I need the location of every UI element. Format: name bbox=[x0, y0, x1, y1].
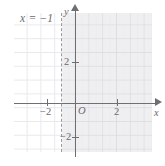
x-tick-label-neg2: −2 bbox=[40, 107, 51, 118]
y-axis-arrow-icon bbox=[71, 4, 79, 11]
x-tick-pos2 bbox=[117, 99, 118, 106]
y-axis-line bbox=[75, 9, 76, 157]
x-tick-label-pos2: 2 bbox=[114, 107, 119, 118]
boundary-equation-label: x = −1 bbox=[20, 13, 53, 25]
y-tick-pos2 bbox=[72, 62, 79, 63]
y-tick-label-pos2: 2 bbox=[64, 57, 69, 68]
plot-area bbox=[14, 13, 152, 152]
y-tick-neg2 bbox=[72, 137, 79, 138]
y-tick-label-neg2: −2 bbox=[60, 132, 71, 143]
x-axis-arrow-icon bbox=[155, 98, 162, 106]
inequality-graph-figure: x = −1 x y O −2 2 2 −2 bbox=[0, 0, 165, 166]
origin-label: O bbox=[78, 106, 86, 117]
x-axis-line bbox=[14, 103, 157, 104]
y-axis-label: y bbox=[64, 7, 69, 18]
x-tick-neg2 bbox=[47, 99, 48, 106]
x-axis-label: x bbox=[154, 108, 159, 119]
